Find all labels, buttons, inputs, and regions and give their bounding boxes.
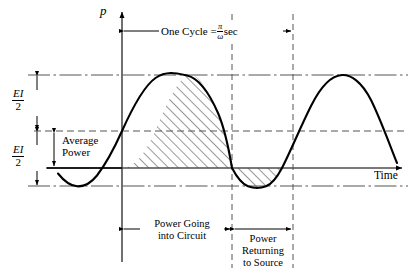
amplitude-lower-fraction: EI 2 <box>12 144 24 168</box>
amplitude-lower-label-backdrop <box>30 145 46 171</box>
average-power-line-1: Average <box>62 134 98 146</box>
power-into-circuit-line-1: Power Going <box>154 218 210 229</box>
power-returning-label: Power Returning to Source <box>233 233 293 268</box>
one-cycle-label: One Cycle =πωsec <box>161 22 238 40</box>
one-cycle-prefix: One Cycle = <box>161 25 217 37</box>
average-power-line-2: Power <box>62 146 90 158</box>
hatch-region-power-into-circuit <box>122 75 232 168</box>
amplitude-upper-label: EI 2 <box>12 88 24 112</box>
power-returning-line-1: Power <box>250 233 277 244</box>
amplitude-upper-label-backdrop <box>30 90 46 116</box>
one-cycle-numerator: π <box>217 22 223 31</box>
one-cycle-suffix: sec <box>224 25 238 37</box>
average-power-label: Average Power <box>62 134 98 159</box>
amplitude-lower-denominator: 2 <box>12 157 24 168</box>
power-returning-line-2: Returning <box>242 245 284 256</box>
one-cycle-fraction: πω <box>217 22 223 40</box>
power-waveform-figure: p Time One Cycle =πωsec EI 2 EI 2 Averag… <box>0 0 413 279</box>
amplitude-upper-fraction: EI 2 <box>12 88 24 112</box>
amplitude-upper-numerator: EI <box>12 88 24 99</box>
power-returning-line-3: to Source <box>243 257 283 268</box>
y-axis-label: p <box>100 4 107 19</box>
amplitude-upper-denominator: 2 <box>12 101 24 112</box>
x-axis-label: Time <box>374 169 398 182</box>
amplitude-lower-numerator: EI <box>12 144 24 155</box>
power-into-circuit-label: Power Going into Circuit <box>141 218 223 242</box>
amplitude-lower-label: EI 2 <box>12 144 24 168</box>
one-cycle-denominator: ω <box>217 32 223 41</box>
power-into-circuit-line-2: into Circuit <box>158 230 206 241</box>
